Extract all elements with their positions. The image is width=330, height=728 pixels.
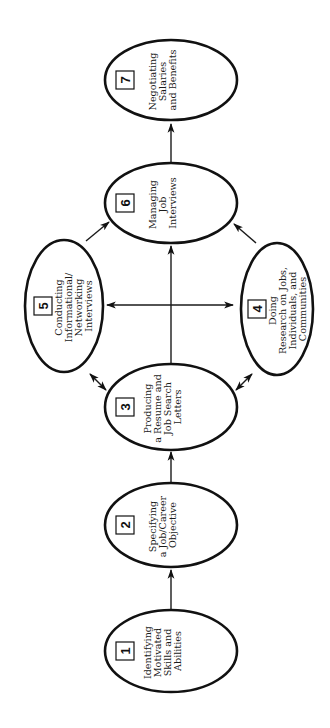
step-3-node: 3 Producing a Resume and Job Search Lett… bbox=[105, 364, 237, 450]
double-arrow-3-4 bbox=[236, 374, 252, 390]
step-7-number: 7 bbox=[118, 76, 133, 83]
double-arrow-3-5 bbox=[90, 374, 106, 390]
step-5-number: 5 bbox=[36, 302, 51, 309]
step-1-node: 1 Identifying Motivated Skills and Abili… bbox=[105, 610, 237, 692]
step-4-number: 4 bbox=[250, 305, 265, 313]
step-6-number: 6 bbox=[118, 199, 133, 206]
step-6-node: 6 Managing Job Interviews bbox=[105, 163, 237, 243]
step-2-number: 2 bbox=[118, 521, 133, 528]
step-2-label: Specifying a Job/Career Objective bbox=[147, 493, 178, 557]
step-3-number: 3 bbox=[118, 403, 133, 410]
step-5-label: Conducting Informational/ Networking Int… bbox=[53, 270, 94, 343]
step-2-node: 2 Specifying a Job/Career Objective bbox=[105, 483, 237, 567]
arrow-4-to-6 bbox=[234, 224, 256, 243]
step-1-number: 1 bbox=[118, 647, 133, 654]
step-5-node: 5 Conducting Informational/ Networking I… bbox=[25, 240, 103, 372]
arrow-5-to-6 bbox=[86, 222, 109, 241]
step-1-label: Identifying Motivated Skills and Abiliti… bbox=[142, 623, 183, 679]
step-4-node: 4 Doing Research on Jobs, Individuals, a… bbox=[241, 243, 313, 375]
step-7-node: 7 Negotiating Salaries and Benefits bbox=[105, 40, 237, 120]
career-process-diagram: 1 Identifying Motivated Skills and Abili… bbox=[0, 0, 330, 728]
